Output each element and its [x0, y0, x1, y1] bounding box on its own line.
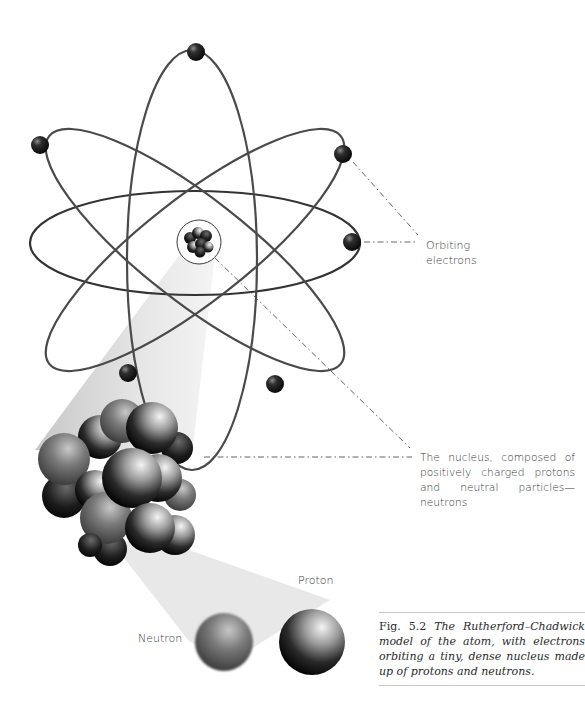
label-orbiting-line1: Orbiting — [426, 238, 516, 253]
electron-right — [343, 233, 361, 251]
leader-nucleus-diagonal — [215, 258, 410, 448]
label-proton: Proton — [298, 573, 333, 588]
label-nucleus: The nucleus, composed of positively char… — [420, 450, 575, 510]
electron-upper-left — [31, 136, 49, 154]
electron-upper-right — [334, 145, 352, 163]
label-neutron: Neutron — [138, 631, 182, 646]
label-orbiting-electrons: Orbiting electrons — [426, 238, 516, 268]
atom-diagram — [0, 0, 585, 718]
electron-lower-right — [266, 375, 284, 393]
leader-electron-upper — [353, 162, 418, 235]
small-nucleus — [177, 220, 221, 264]
label-orbiting-line2: electrons — [426, 253, 516, 268]
electron-top — [187, 43, 205, 61]
proton-sphere — [279, 609, 345, 675]
figure-caption: Fig. 5.2 The Rutherford–Chadwick model o… — [379, 612, 585, 686]
neutron-sphere — [195, 613, 253, 671]
electron-lower-left — [119, 364, 137, 382]
caption-number: Fig. 5.2 — [379, 620, 426, 633]
